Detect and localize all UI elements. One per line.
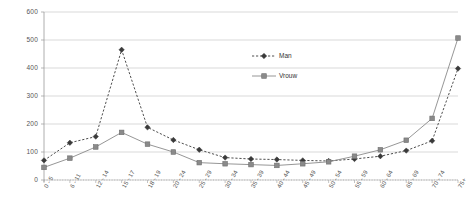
data-point-marker-vrouw bbox=[68, 156, 73, 161]
data-point-marker-man bbox=[404, 148, 409, 153]
series-vrouw bbox=[42, 36, 461, 170]
data-point-marker-legend-vrouw bbox=[262, 74, 267, 79]
legend-label-vrouw: Vrouw bbox=[279, 72, 297, 79]
series-man bbox=[41, 47, 460, 164]
data-point-marker-vrouw bbox=[378, 147, 383, 152]
data-point-marker-legend-man bbox=[261, 53, 266, 58]
data-point-marker-vrouw bbox=[145, 142, 150, 147]
gridlines bbox=[44, 12, 458, 180]
data-point-marker-man bbox=[67, 140, 72, 145]
y-axis-tick-label: 100 bbox=[14, 148, 38, 155]
data-point-marker-vrouw bbox=[430, 116, 435, 121]
data-point-marker-vrouw bbox=[275, 163, 280, 168]
y-axis-tick-label: 600 bbox=[14, 8, 38, 15]
data-point-marker-man bbox=[274, 157, 279, 162]
data-point-marker-vrouw bbox=[404, 138, 409, 143]
y-axis-tick-label: 300 bbox=[14, 92, 38, 99]
y-axis-tick-label: 400 bbox=[14, 64, 38, 71]
legend-label-man: Man bbox=[279, 52, 292, 59]
data-point-marker-vrouw bbox=[352, 154, 357, 159]
data-point-marker-man bbox=[119, 47, 124, 52]
data-point-marker-vrouw bbox=[456, 36, 461, 41]
data-point-marker-man bbox=[171, 137, 176, 142]
y-axis-tick-label: 0 bbox=[14, 176, 38, 183]
data-point-marker-vrouw bbox=[223, 161, 228, 166]
data-point-marker-vrouw bbox=[93, 145, 98, 150]
data-point-marker-man bbox=[248, 156, 253, 161]
legend-symbols bbox=[252, 53, 276, 78]
data-point-marker-man bbox=[429, 138, 434, 143]
data-point-marker-man bbox=[378, 154, 383, 159]
data-point-marker-vrouw bbox=[119, 130, 124, 135]
data-point-marker-man bbox=[455, 66, 460, 71]
data-point-marker-vrouw bbox=[326, 160, 331, 165]
data-point-marker-vrouw bbox=[300, 161, 305, 166]
data-point-marker-vrouw bbox=[42, 165, 47, 170]
data-series-group bbox=[41, 36, 460, 170]
data-point-marker-vrouw bbox=[171, 150, 176, 155]
data-point-marker-vrouw bbox=[197, 160, 202, 165]
data-point-marker-man bbox=[93, 134, 98, 139]
y-axis-tick-label: 200 bbox=[14, 120, 38, 127]
data-point-marker-man bbox=[145, 125, 150, 130]
chart-container: 0100200300400500600 0 - 56 - 1112 - 1415… bbox=[0, 0, 467, 216]
data-point-marker-vrouw bbox=[249, 162, 254, 167]
y-axis-tick-label: 500 bbox=[14, 36, 38, 43]
axis-lines bbox=[41, 12, 458, 183]
data-point-marker-man bbox=[41, 158, 46, 163]
data-point-marker-man bbox=[222, 155, 227, 160]
